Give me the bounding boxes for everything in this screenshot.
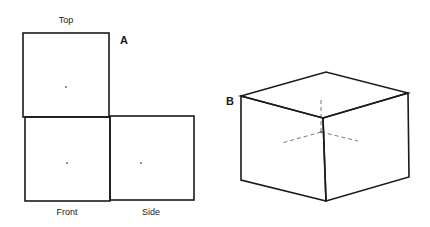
cube-top-face	[241, 72, 408, 118]
side-view-box	[110, 116, 194, 200]
side-view-label: Side	[142, 207, 160, 217]
panel-b-letter: B	[226, 95, 234, 107]
top-center-dot	[65, 86, 67, 88]
cube-right-face	[323, 93, 409, 201]
front-view-box	[25, 117, 110, 201]
isometric-cube	[241, 72, 409, 201]
diagram-canvas	[0, 0, 430, 227]
panel-a-letter: A	[120, 34, 128, 46]
cube-left-face	[241, 96, 326, 201]
hidden-center-dot	[320, 131, 322, 133]
orthographic-views	[23, 33, 194, 201]
hidden-axis-left	[282, 132, 321, 143]
side-center-dot	[140, 162, 142, 164]
front-center-dot	[66, 162, 68, 164]
front-view-label: Front	[56, 207, 77, 217]
top-view-box	[23, 33, 109, 117]
top-view-label: Top	[59, 15, 74, 25]
hidden-axis-right	[321, 132, 358, 141]
